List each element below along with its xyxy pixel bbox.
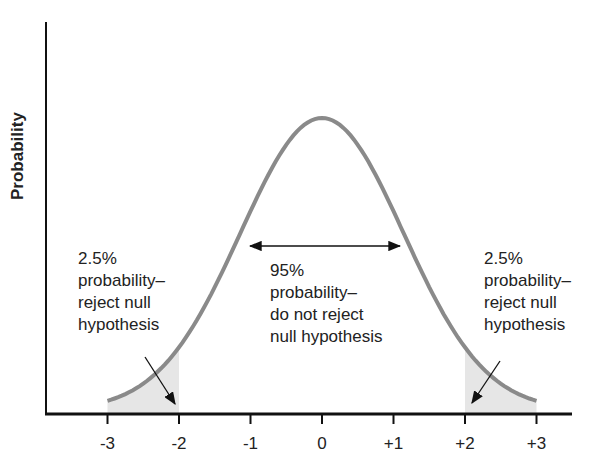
annotation-line: hypothesis bbox=[484, 314, 571, 336]
left-tail-annotation: 2.5% probability– reject null hypothesis bbox=[78, 248, 165, 336]
annotation-line: 2.5% bbox=[484, 248, 571, 270]
right-tail-shade bbox=[465, 347, 537, 413]
annotation-line: reject null bbox=[78, 292, 165, 314]
annotation-line: 2.5% bbox=[78, 248, 165, 270]
x-ticks bbox=[108, 415, 537, 424]
left-tail-shade bbox=[108, 347, 180, 413]
annotation-line: null hypothesis bbox=[270, 326, 382, 348]
chart-canvas bbox=[0, 0, 611, 473]
center-annotation: 95% probability– do not reject null hypo… bbox=[270, 260, 382, 348]
x-tick-label: -3 bbox=[88, 433, 128, 455]
x-tick-label: +1 bbox=[374, 433, 414, 455]
annotation-line: do not reject bbox=[270, 304, 382, 326]
annotation-line: probability– bbox=[78, 270, 165, 292]
annotation-line: hypothesis bbox=[78, 314, 165, 336]
x-tick-label: -2 bbox=[159, 433, 199, 455]
annotation-line: reject null bbox=[484, 292, 571, 314]
annotation-line: probability– bbox=[270, 282, 382, 304]
x-tick-label: -1 bbox=[231, 433, 271, 455]
x-tick-label: 0 bbox=[302, 433, 342, 455]
annotation-line: probability– bbox=[484, 270, 571, 292]
x-tick-label: +3 bbox=[517, 433, 557, 455]
x-tick-label: +2 bbox=[445, 433, 485, 455]
right-tail-annotation: 2.5% probability– reject null hypothesis bbox=[484, 248, 571, 336]
y-axis-label: Probability bbox=[8, 112, 28, 200]
annotation-line: 95% bbox=[270, 260, 382, 282]
